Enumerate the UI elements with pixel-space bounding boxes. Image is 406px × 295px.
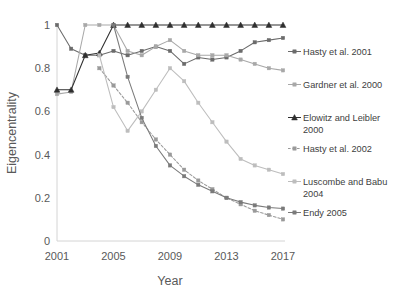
- series-2: [54, 22, 286, 92]
- legend-label: Elowitz and Leibler: [303, 113, 380, 123]
- y-tick-labels: 00.20.40.60.81: [35, 19, 50, 247]
- data-point-marker: [182, 175, 185, 178]
- y-tick-label: 0: [44, 235, 50, 247]
- x-tick-labels: 20012005200920132017: [45, 250, 295, 262]
- x-tick-label: 2009: [158, 250, 182, 262]
- data-point-marker: [140, 49, 143, 52]
- data-point-marker: [239, 200, 242, 203]
- data-point-marker: [140, 116, 143, 119]
- data-point-marker: [168, 38, 171, 41]
- data-point-marker: [281, 218, 284, 221]
- data-point-marker: [168, 49, 171, 52]
- data-point-marker: [253, 164, 256, 167]
- data-point-marker: [112, 23, 115, 26]
- data-point-marker: [168, 153, 171, 156]
- data-point-marker: [225, 140, 228, 143]
- legend-label: Gardner et al. 2000: [303, 80, 382, 90]
- data-point-marker: [55, 23, 58, 26]
- data-point-marker: [126, 75, 129, 78]
- data-point-marker: [211, 58, 214, 61]
- data-point-marker: [112, 84, 115, 87]
- chart-canvas: 00.20.40.60.8120012005200920132017Eigenc…: [0, 0, 406, 295]
- legend-label: Hasty et al. 2002: [303, 144, 372, 154]
- x-tick-label: 2017: [271, 250, 295, 262]
- series-line: [57, 25, 283, 94]
- data-point-marker: [154, 88, 157, 91]
- data-point-marker: [112, 105, 115, 108]
- data-point-marker: [267, 168, 270, 171]
- series-4: [98, 54, 285, 176]
- data-point-marker: [182, 168, 185, 171]
- data-point-marker: [267, 38, 270, 41]
- data-point-marker: [98, 23, 101, 26]
- data-point-marker: [267, 213, 270, 216]
- data-point-marker: [293, 211, 296, 214]
- data-point-marker: [281, 36, 284, 39]
- data-point-marker: [182, 79, 185, 82]
- data-point-marker: [197, 179, 200, 182]
- data-point-marker: [253, 62, 256, 65]
- data-point-marker: [126, 101, 129, 104]
- series-1: [55, 23, 284, 96]
- data-point-marker: [84, 23, 87, 26]
- series-3: [98, 67, 285, 222]
- x-tick-label: 2005: [101, 250, 125, 262]
- data-point-marker: [197, 183, 200, 186]
- series-group: [54, 22, 286, 221]
- y-axis-title: Eigencentrality: [5, 91, 19, 174]
- data-point-marker: [154, 138, 157, 141]
- data-point-marker: [293, 147, 296, 150]
- series-0: [55, 23, 284, 65]
- x-tick-label: 2001: [45, 250, 69, 262]
- data-point-marker: [211, 54, 214, 57]
- data-point-marker: [253, 41, 256, 44]
- data-point-marker: [182, 62, 185, 65]
- data-point-marker: [126, 54, 129, 57]
- data-point-marker: [211, 121, 214, 124]
- data-point-marker: [182, 49, 185, 52]
- legend-label: Endy 2005: [303, 208, 347, 218]
- data-point-marker: [211, 190, 214, 193]
- data-point-marker: [55, 92, 58, 95]
- data-point-marker: [253, 209, 256, 212]
- data-point-marker: [98, 54, 101, 57]
- series-line: [57, 25, 283, 90]
- data-point-marker: [126, 49, 129, 52]
- x-axis-title: Year: [157, 274, 182, 288]
- data-point-marker: [154, 144, 157, 147]
- data-point-marker: [98, 67, 101, 70]
- legend-label: Luscombe and Babu: [303, 177, 387, 187]
- data-point-marker: [168, 164, 171, 167]
- data-point-marker: [253, 204, 256, 207]
- data-point-marker: [225, 196, 228, 199]
- data-point-marker: [126, 129, 129, 132]
- y-tick-label: 1: [44, 19, 50, 31]
- data-point-marker: [293, 50, 296, 53]
- data-point-marker: [281, 207, 284, 210]
- data-point-marker: [140, 110, 143, 113]
- legend-label: 2000: [303, 125, 323, 135]
- data-point-marker: [140, 54, 143, 57]
- legend-label: 2004: [303, 189, 323, 199]
- data-point-marker: [225, 54, 228, 57]
- data-point-marker: [69, 47, 72, 50]
- legend-label: Hasty et al. 2001: [303, 47, 372, 57]
- data-point-marker: [239, 58, 242, 61]
- data-point-marker: [267, 206, 270, 209]
- data-point-marker: [154, 45, 157, 48]
- y-tick-label: 0.4: [35, 149, 50, 161]
- data-point-marker: [293, 180, 296, 183]
- data-point-marker: [281, 172, 284, 175]
- y-tick-label: 0.2: [35, 192, 50, 204]
- series-line: [99, 68, 283, 219]
- data-point-marker: [267, 67, 270, 70]
- legend: Hasty et al. 2001Gardner et al. 2000Elow…: [288, 47, 387, 218]
- data-point-marker: [239, 157, 242, 160]
- data-point-marker: [239, 49, 242, 52]
- data-point-marker: [281, 69, 284, 72]
- x-tick-label: 2013: [214, 250, 238, 262]
- series-line: [57, 25, 283, 64]
- data-point-marker: [112, 49, 115, 52]
- y-tick-label: 0.6: [35, 105, 50, 117]
- data-point-marker: [293, 83, 296, 86]
